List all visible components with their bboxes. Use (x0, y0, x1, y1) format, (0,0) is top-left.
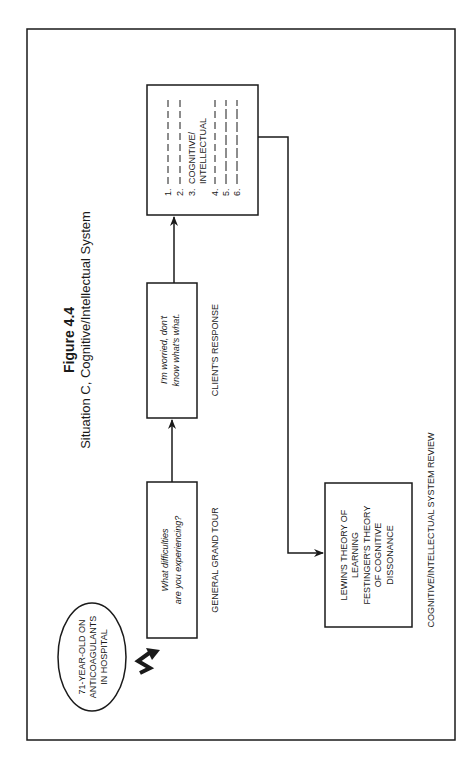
figure-number: Figure 4.4 (61, 307, 77, 373)
review-line-1: LEWIN'S THEORY OF (339, 509, 349, 600)
list-item-3-label-line2: INTELLECTUAL (198, 118, 208, 184)
review-line-5: DISSONANCE (385, 525, 395, 585)
list-item-5-number: 5. (221, 188, 231, 196)
list-item-6-number: 6. (232, 188, 242, 196)
start-line-3: IN HOSPITAL (99, 629, 109, 684)
client-response-line-1: I'm worried, don't (159, 316, 169, 384)
list-item-4-number: 4. (210, 188, 220, 196)
figure-title: Situation C, Cognitive/Intellectual Syst… (78, 211, 93, 449)
list-item-1-number: 1. (163, 188, 173, 196)
grand-tour-line-2: are you experiencing? (173, 516, 183, 605)
list-item-3-label: COGNITIVE/ (187, 131, 197, 184)
arrow-list-to-review (258, 137, 323, 553)
list-item-2-number: 2. (175, 188, 185, 196)
review-caption: COGNITIVE/INTELLECTUAL SYSTEM REVIEW (426, 432, 436, 628)
review-line-4: OF COGNITIVE (373, 523, 383, 588)
review-line-2: LEARNING (350, 532, 360, 578)
start-line-1: 71-YEAR-OLD ON (77, 619, 87, 694)
client-response-caption: CLIENT'S RESPONSE (210, 304, 220, 396)
review-line-3: FESTINGER'S THEORY (362, 506, 372, 605)
client-response-line-2: know what's what. (171, 314, 181, 387)
diagram-canvas: Figure 4.4 Situation C, Cognitive/Intell… (0, 0, 476, 758)
grand-tour-caption: GENERAL GRAND TOUR (210, 507, 220, 613)
grand-tour-box (147, 482, 197, 638)
list-item-3-number: 3. (187, 188, 197, 196)
start-line-2: ANTICOAGULANTS (88, 616, 98, 699)
grand-tour-line-1: What difficulties (160, 528, 170, 592)
